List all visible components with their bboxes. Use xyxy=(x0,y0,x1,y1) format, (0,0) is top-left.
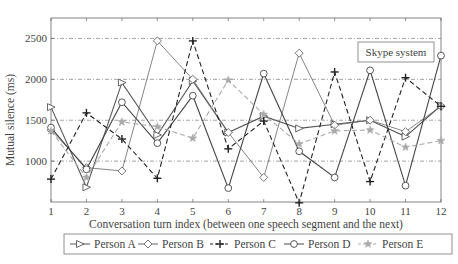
x-tick-label: 7 xyxy=(261,205,267,217)
legend: Person APerson BPerson CPerson DPerson E xyxy=(64,234,452,254)
x-tick-label: 2 xyxy=(84,205,90,217)
x-tick-label: 1 xyxy=(48,205,54,217)
x-tick-label: 3 xyxy=(119,205,125,217)
annotation-label: Skype system xyxy=(366,46,427,58)
legend-label: Person E xyxy=(382,238,423,250)
x-tick-label: 12 xyxy=(436,205,447,217)
y-tick-label: 2000 xyxy=(25,73,48,85)
x-tick-label: 11 xyxy=(400,205,411,217)
x-axis-title: Conversation turn index (between one spe… xyxy=(89,218,403,231)
legend-label: Person A xyxy=(94,238,137,250)
series-person-d xyxy=(48,52,445,191)
x-tick-label: 10 xyxy=(365,205,377,217)
y-axis-title: Mutual silence (ms) xyxy=(4,74,17,166)
x-tick-label: 6 xyxy=(226,205,232,217)
x-tick-label: 4 xyxy=(155,205,161,217)
x-tick-label: 9 xyxy=(332,205,338,217)
y-tick-label: 2500 xyxy=(25,32,48,44)
x-tick-label: 8 xyxy=(296,205,302,217)
y-tick-label: 1500 xyxy=(25,114,48,126)
annotation-box: Skype system xyxy=(358,42,434,62)
legend-label: Person B xyxy=(162,238,204,250)
y-tick-label: 1000 xyxy=(25,155,48,167)
legend-item-person-b: Person B xyxy=(138,238,204,250)
x-tick-label: 5 xyxy=(190,205,196,217)
legend-label: Person D xyxy=(308,238,351,250)
line-chart: 1234567891011121000150020002500 Skype sy… xyxy=(0,0,458,264)
legend-label: Person C xyxy=(234,238,276,250)
